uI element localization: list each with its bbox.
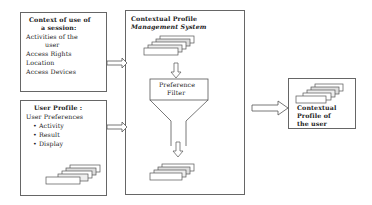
down-arrow-icon — [173, 142, 183, 157]
user-profile-box: User Profile : User Preferences • Activi… — [20, 100, 107, 196]
profile-subtitle: User Preferences — [26, 113, 83, 122]
context-item: Access Devices — [26, 68, 76, 77]
arrow-profile-to-system — [107, 122, 127, 132]
down-arrow-icon — [171, 63, 181, 78]
context-title-line2: a session: — [41, 24, 76, 33]
context-item: user — [45, 41, 59, 50]
arrow-system-to-output — [252, 101, 288, 115]
filter-label-line2: Filter — [167, 89, 185, 98]
output-line3: the user — [297, 120, 327, 129]
arrow-context-to-system — [107, 58, 127, 68]
profile-title: User Profile : — [34, 104, 82, 113]
context-of-use-box: Context of use of a session: Activities … — [20, 12, 107, 92]
records-stack-top — [144, 36, 194, 55]
context-item: Access Rights — [26, 50, 72, 59]
profile-bullet: • Activity — [33, 122, 64, 131]
context-item: Location — [26, 59, 54, 68]
profile-bullet: • Result — [33, 131, 60, 140]
profile-bullet: • Display — [33, 140, 63, 149]
system-title-line2: Management System — [131, 23, 207, 32]
records-stack-bottom — [150, 164, 194, 180]
